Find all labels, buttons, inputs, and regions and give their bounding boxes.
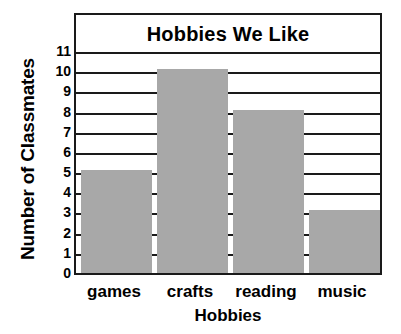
x-axis-title: Hobbies [74, 305, 382, 327]
y-axis-title: Number of Classmates [17, 39, 39, 279]
bar-reading [233, 110, 304, 273]
bar-chart: Number of Classmates 01234567891011 Hobb… [0, 0, 401, 334]
y-axis-tick-labels: 01234567891011 [47, 13, 71, 275]
bar-crafts [157, 69, 228, 273]
y-axis-tick-label: 10 [47, 64, 71, 78]
x-axis-tick-label-games: games [76, 281, 152, 303]
x-axis-tick-labels: gamescraftsreadingmusic [74, 281, 382, 303]
plot-area: Hobbies We Like [74, 13, 382, 275]
y-axis-tick-label: 5 [47, 165, 71, 179]
plot-inner: Hobbies We Like [76, 15, 380, 273]
y-axis-tick-label: 1 [47, 246, 71, 260]
y-axis-tick-label: 3 [47, 205, 71, 219]
bar-music [309, 210, 380, 273]
bars-layer [76, 15, 380, 273]
y-axis-tick-label: 7 [47, 125, 71, 139]
y-axis-tick-label: 0 [47, 266, 71, 280]
y-axis-tick-label: 6 [47, 145, 71, 159]
bar-games [81, 170, 152, 273]
x-axis-tick-label-music: music [304, 281, 380, 303]
y-axis-tick-label: 9 [47, 84, 71, 98]
x-axis-tick-label-crafts: crafts [152, 281, 228, 303]
y-axis-tick-label: 11 [47, 44, 71, 58]
y-axis-tick-label: 8 [47, 105, 71, 119]
y-axis-tick-label: 2 [47, 226, 71, 240]
x-axis-tick-label-reading: reading [228, 281, 304, 303]
y-axis-tick-label: 4 [47, 185, 71, 199]
